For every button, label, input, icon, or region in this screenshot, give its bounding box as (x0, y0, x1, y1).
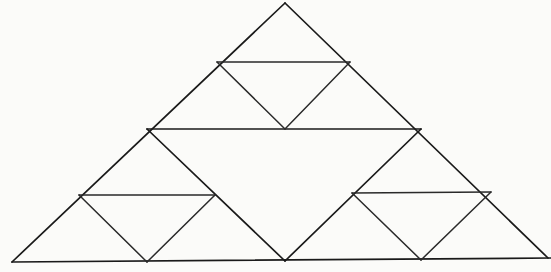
triangle-figure-svg (0, 0, 551, 272)
triangle-figure-canvas (0, 0, 551, 272)
right-inv-top-chord (352, 192, 491, 193)
